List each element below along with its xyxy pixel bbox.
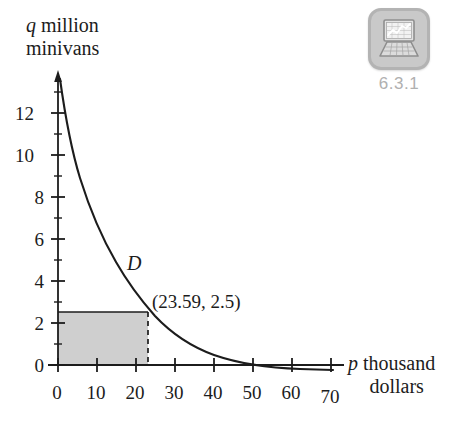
y-axis-arrowhead <box>54 70 62 82</box>
laptop-chart-icon <box>368 8 430 70</box>
figure-number-label: 6.3.1 <box>357 74 441 94</box>
shaded-region-rect <box>58 312 148 365</box>
figure-badge: 6.3.1 <box>357 8 441 94</box>
figure-container: q million minivans p thousanddollars D (… <box>0 0 465 423</box>
